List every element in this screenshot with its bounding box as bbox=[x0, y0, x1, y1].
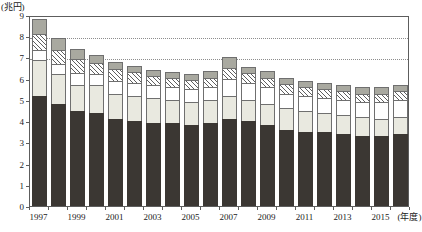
bar-segment-segment-4-hatched bbox=[241, 73, 256, 83]
y-tick-label-8: 8 bbox=[10, 33, 24, 42]
bar-2011 bbox=[298, 81, 313, 206]
bar-segment-segment-2-light-gray bbox=[108, 94, 123, 119]
bar-segment-segment-2-light-gray bbox=[32, 60, 47, 96]
bar-segment-segment-3-white bbox=[222, 79, 237, 96]
plot-area bbox=[29, 16, 409, 207]
x-axis-unit-label: (年度) bbox=[398, 212, 422, 222]
bar-segment-segment-4-hatched bbox=[203, 78, 218, 88]
bar-segment-segment-5-gray bbox=[51, 38, 66, 50]
bar-2008 bbox=[241, 67, 256, 206]
x-tick-mark-8 bbox=[181, 207, 182, 210]
bar-segment-segment-2-light-gray bbox=[70, 85, 85, 110]
bar-segment-segment-5-gray bbox=[32, 19, 47, 34]
bar-segment-segment-2-light-gray bbox=[203, 100, 218, 123]
bar-segment-segment-5-gray bbox=[70, 49, 85, 59]
bar-segment-segment-5-gray bbox=[89, 55, 104, 62]
bar-1998 bbox=[51, 38, 66, 206]
x-tick-mark-7 bbox=[162, 207, 163, 210]
bar-segment-segment-2-light-gray bbox=[184, 102, 199, 125]
bar-segment-segment-2-light-gray bbox=[89, 85, 104, 113]
x-tick-label-2001: 2001 bbox=[106, 212, 124, 222]
bar-segment-segment-1-dark bbox=[203, 123, 218, 206]
bar-segment-segment-2-light-gray bbox=[374, 119, 389, 136]
bar-segment-segment-2-light-gray bbox=[355, 117, 370, 136]
bar-segment-segment-1-dark bbox=[298, 132, 313, 206]
bar-segment-segment-4-hatched bbox=[51, 50, 66, 64]
y-tick-label-1: 1 bbox=[10, 181, 24, 190]
bar-2005 bbox=[184, 74, 199, 206]
bar-segment-segment-4-hatched bbox=[184, 80, 199, 90]
x-tick-mark-14 bbox=[295, 207, 296, 210]
bar-segment-segment-2-light-gray bbox=[127, 96, 142, 121]
bar-2006 bbox=[203, 71, 218, 206]
bar-2012 bbox=[317, 83, 332, 206]
bar-segment-segment-1-dark bbox=[355, 136, 370, 206]
bar-segment-segment-4-hatched bbox=[127, 72, 142, 83]
y-tick-mark-9 bbox=[26, 16, 29, 17]
bar-2003 bbox=[146, 70, 161, 206]
y-tick-label-5: 5 bbox=[10, 96, 24, 105]
bar-segment-segment-3-white bbox=[241, 83, 256, 100]
bar-segment-segment-3-white bbox=[165, 87, 180, 100]
bar-segment-segment-3-white bbox=[393, 100, 408, 117]
bar-segment-segment-2-light-gray bbox=[222, 96, 237, 119]
bar-2004 bbox=[165, 72, 180, 206]
x-tick-mark-16 bbox=[333, 207, 334, 210]
bar-segment-segment-2-light-gray bbox=[146, 98, 161, 123]
bar-segment-segment-3-white bbox=[355, 102, 370, 117]
bar-segment-segment-1-dark bbox=[241, 121, 256, 206]
bar-segment-segment-4-hatched bbox=[393, 91, 408, 99]
bar-segment-segment-2-light-gray bbox=[165, 100, 180, 123]
y-tick-label-6: 6 bbox=[10, 75, 24, 84]
x-tick-mark-13 bbox=[276, 207, 277, 210]
bar-segment-segment-3-white bbox=[279, 94, 294, 109]
bar-segment-segment-3-white bbox=[203, 87, 218, 100]
bar-segment-segment-1-dark bbox=[32, 96, 47, 206]
x-tick-mark-11 bbox=[238, 207, 239, 210]
bar-segment-segment-4-hatched bbox=[374, 94, 389, 102]
bar-segment-segment-3-white bbox=[127, 83, 142, 96]
bar-segment-segment-3-white bbox=[70, 73, 85, 85]
bar-segment-segment-4-hatched bbox=[260, 78, 275, 88]
bar-segment-segment-1-dark bbox=[279, 130, 294, 206]
x-tick-mark-0 bbox=[29, 207, 30, 210]
bar-segment-segment-1-dark bbox=[51, 104, 66, 206]
y-tick-label-7: 7 bbox=[10, 54, 24, 63]
bar-segment-segment-2-light-gray bbox=[279, 108, 294, 129]
x-tick-label-2005: 2005 bbox=[182, 212, 200, 222]
bar-2002 bbox=[127, 66, 142, 206]
bar-segment-segment-1-dark bbox=[393, 134, 408, 206]
x-tick-label-2009: 2009 bbox=[258, 212, 276, 222]
bars-layer bbox=[30, 17, 408, 206]
y-tick-label-3: 3 bbox=[10, 139, 24, 148]
y-tick-mark-4 bbox=[26, 122, 29, 123]
x-tick-mark-20 bbox=[409, 207, 410, 210]
bar-segment-segment-2-light-gray bbox=[336, 115, 351, 134]
bar-2000 bbox=[89, 55, 104, 206]
x-tick-mark-5 bbox=[124, 207, 125, 210]
bar-1999 bbox=[70, 49, 85, 206]
bar-segment-segment-2-light-gray bbox=[241, 100, 256, 121]
bar-2015 bbox=[374, 87, 389, 206]
bar-segment-segment-3-white bbox=[298, 96, 313, 111]
bar-segment-segment-4-hatched bbox=[108, 69, 123, 81]
bar-segment-segment-1-dark bbox=[317, 132, 332, 206]
bar-segment-segment-1-dark bbox=[222, 119, 237, 206]
x-tick-label-2007: 2007 bbox=[220, 212, 238, 222]
x-tick-label-2013: 2013 bbox=[334, 212, 352, 222]
bar-segment-segment-1-dark bbox=[184, 125, 199, 206]
bar-segment-segment-2-light-gray bbox=[298, 111, 313, 132]
x-tick-mark-2 bbox=[67, 207, 68, 210]
y-tick-mark-3 bbox=[26, 143, 29, 144]
bar-segment-segment-2-light-gray bbox=[393, 117, 408, 134]
x-tick-mark-15 bbox=[314, 207, 315, 210]
x-tick-mark-19 bbox=[390, 207, 391, 210]
bar-segment-segment-1-dark bbox=[165, 123, 180, 206]
bar-segment-segment-2-light-gray bbox=[51, 74, 66, 104]
bar-segment-segment-3-white bbox=[260, 87, 275, 104]
bar-segment-segment-4-hatched bbox=[165, 78, 180, 88]
x-tick-mark-17 bbox=[352, 207, 353, 210]
bar-segment-segment-1-dark bbox=[336, 134, 351, 206]
y-tick-mark-5 bbox=[26, 101, 29, 102]
